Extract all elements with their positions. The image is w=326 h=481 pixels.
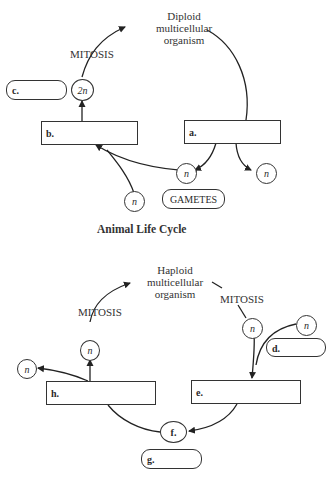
label-line: organism — [130, 288, 220, 300]
answer-box-b[interactable]: b. — [41, 121, 138, 145]
label-line: multicellular — [130, 276, 220, 288]
answer-box-g[interactable]: g. — [141, 449, 202, 469]
animal-life-cycle-caption: Animal Life Cycle — [97, 223, 186, 235]
mitosis-label-left: MITOSIS — [78, 306, 122, 318]
answer-box-e[interactable]: e. — [191, 380, 301, 404]
diploid-organism-label: Diploid multicellular organism — [137, 10, 231, 46]
box-label: e. — [196, 387, 203, 398]
answer-circle-f[interactable]: f. — [160, 421, 187, 443]
box-label: g. — [147, 454, 155, 465]
gametes-label: GAMETES — [162, 189, 225, 209]
answer-box-h[interactable]: h. — [46, 381, 156, 405]
gamete-circle-3: n — [124, 191, 145, 212]
gamete-circle-left: n — [17, 359, 37, 379]
label-line: organism — [137, 34, 231, 46]
gamete-circle-1: n — [176, 163, 197, 184]
gamete-circle-2: n — [256, 163, 277, 184]
answer-box-d[interactable]: d. — [266, 338, 326, 357]
label-line: Diploid — [137, 10, 231, 22]
answer-box-c[interactable]: c. — [6, 80, 67, 100]
box-label: d. — [272, 342, 280, 353]
label-line: multicellular — [137, 22, 231, 34]
spore-circle-left: n — [80, 340, 100, 361]
diploid-zygote-circle: 2n — [71, 79, 94, 101]
box-label: b. — [46, 128, 54, 139]
box-label: h. — [51, 388, 59, 399]
spore-circle-right: n — [242, 318, 263, 339]
answer-box-a[interactable]: a. — [184, 120, 281, 144]
mitosis-label-right: MITOSIS — [220, 293, 264, 305]
mitosis-label: MITOSIS — [70, 48, 114, 60]
label-line: Haploid — [130, 264, 220, 276]
box-label: c. — [12, 85, 19, 96]
box-label: a. — [189, 127, 197, 138]
cycle-arrows — [0, 0, 326, 481]
gamete-circle-right: n — [296, 315, 317, 336]
haploid-organism-label: Haploid multicellular organism — [130, 264, 220, 300]
